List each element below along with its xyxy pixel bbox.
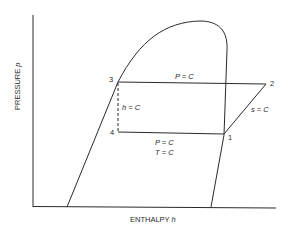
x-axis [33,207,276,209]
process-line-3-2 [118,82,266,84]
x-axis-symbol: h [172,215,176,224]
saturation-dome [67,21,227,207]
x-axis-label-text: ENTHALPY [130,215,169,224]
y-axis-label: PRESSURE p [13,62,22,110]
label-high-pressure-constant: P = C [175,73,194,81]
x-axis-label: ENTHALPY h [130,216,176,224]
point-3-label: 3 [109,76,113,84]
point-2-label: 2 [270,80,274,88]
y-axis-label-text: PRESSURE [13,69,22,110]
point-1-label: 1 [228,134,232,142]
label-low-pressure-constant: P = C [155,139,174,147]
ph-diagram [0,0,292,233]
point-4-label: 4 [110,129,114,137]
label-entropy-constant: s = C [251,106,269,114]
y-axis-symbol: p [13,62,22,66]
label-temperature-constant: T = C [155,149,174,157]
label-enthalpy-constant: h = C [122,104,140,112]
process-line-4-1 [118,132,224,134]
